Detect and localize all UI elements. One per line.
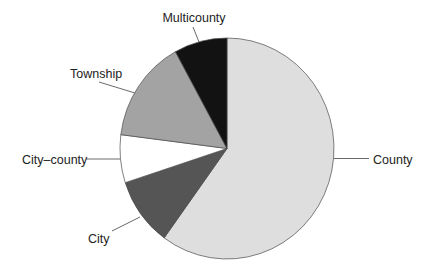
leader-line-city <box>112 217 140 231</box>
label-township: Township <box>70 67 122 81</box>
label-city: City <box>88 232 110 246</box>
label-county: County <box>373 153 413 167</box>
leader-line-township <box>99 82 135 93</box>
pie-chart: Multicounty Township City–county City Co… <box>0 0 431 276</box>
leader-line-multicounty <box>193 27 199 42</box>
label-city-county: City–county <box>22 153 88 167</box>
label-multicounty: Multicounty <box>162 11 226 25</box>
pie-slices <box>120 38 334 259</box>
